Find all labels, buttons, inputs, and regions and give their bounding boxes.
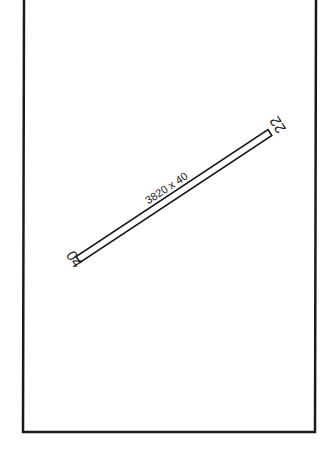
diagram-frame <box>23 0 316 432</box>
runway-end-04-label: 04 <box>63 247 86 270</box>
runway: 3820 x 40 <box>69 118 272 262</box>
airport-diagram: 3820 x 40 04 22 <box>0 0 324 455</box>
runway-strip <box>76 130 272 263</box>
